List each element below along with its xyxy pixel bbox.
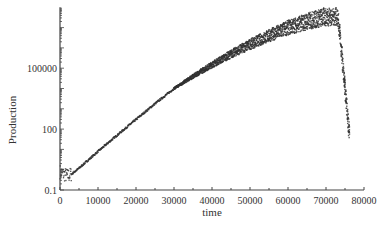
data-point: [331, 24, 332, 25]
data-point: [345, 101, 346, 102]
data-point: [290, 32, 291, 33]
data-point: [134, 120, 135, 121]
data-point: [322, 24, 323, 25]
data-point: [336, 21, 337, 22]
data-point: [63, 177, 64, 178]
data-point: [327, 9, 328, 10]
data-point: [289, 27, 290, 28]
data-point: [326, 19, 327, 20]
data-point: [338, 29, 339, 30]
data-point: [341, 51, 342, 52]
data-point: [265, 35, 266, 36]
data-point: [313, 23, 314, 24]
data-point: [299, 16, 300, 17]
data-point: [333, 17, 334, 18]
data-point: [337, 14, 338, 15]
data-point: [317, 23, 318, 24]
data-point: [324, 17, 325, 18]
data-point: [287, 32, 288, 33]
data-point: [288, 25, 289, 26]
data-point: [309, 12, 310, 13]
data-point: [344, 92, 345, 93]
data-point: [328, 19, 329, 20]
data-point: [295, 23, 296, 24]
data-point: [68, 180, 69, 181]
data-point: [349, 133, 350, 134]
data-point: [339, 38, 340, 39]
data-point: [347, 121, 348, 122]
data-point: [277, 30, 278, 31]
data-point: [337, 10, 338, 11]
data-point: [305, 21, 306, 22]
data-point: [328, 10, 329, 11]
data-point: [348, 137, 349, 138]
data-point: [323, 19, 324, 20]
data-point: [234, 54, 235, 55]
data-point: [244, 51, 245, 52]
data-point: [339, 35, 340, 36]
data-point: [344, 82, 345, 83]
data-point: [250, 40, 251, 41]
data-point: [67, 174, 68, 175]
data-point: [127, 126, 128, 127]
data-point: [321, 9, 322, 10]
data-point: [347, 110, 348, 111]
data-point: [258, 45, 259, 46]
data-point: [233, 56, 234, 57]
data-point: [332, 11, 333, 12]
data-point: [69, 177, 70, 178]
data-point: [316, 15, 317, 16]
chart: 0100002000030000400005000060000700008000…: [0, 0, 387, 230]
data-point: [324, 18, 325, 19]
data-point: [348, 121, 349, 122]
data-point: [154, 104, 155, 105]
data-point: [297, 31, 298, 32]
y-axis-label: Production: [6, 95, 18, 144]
data-point: [325, 15, 326, 16]
data-point: [311, 20, 312, 21]
data-point: [280, 27, 281, 28]
data-point: [317, 25, 318, 26]
data-point: [242, 48, 243, 49]
data-point: [325, 25, 326, 26]
data-point: [286, 35, 287, 36]
data-point: [295, 17, 296, 18]
data-points: [59, 7, 350, 181]
data-point: [327, 17, 328, 18]
data-point: [112, 139, 113, 140]
data-point: [310, 18, 311, 19]
data-point: [279, 33, 280, 34]
data-point: [108, 143, 109, 144]
data-point: [346, 106, 347, 107]
data-point: [315, 11, 316, 12]
data-point: [345, 98, 346, 99]
data-point: [319, 14, 320, 15]
data-point: [328, 20, 329, 21]
data-point: [291, 19, 292, 20]
data-point: [348, 135, 349, 136]
data-point: [307, 26, 308, 27]
axes: 0100002000030000400005000060000700008000…: [27, 7, 377, 206]
data-point: [344, 76, 345, 77]
x-tick-label: 0: [58, 195, 63, 206]
data-point: [289, 30, 290, 31]
data-point: [271, 39, 272, 40]
data-point: [297, 20, 298, 21]
data-point: [301, 30, 302, 31]
data-point: [341, 46, 342, 47]
data-point: [348, 126, 349, 127]
data-point: [229, 58, 230, 59]
data-point: [84, 163, 85, 164]
data-point: [274, 33, 275, 34]
data-point: [293, 31, 294, 32]
data-point: [69, 175, 70, 176]
data-point: [103, 146, 104, 147]
data-point: [311, 28, 312, 29]
data-point: [340, 37, 341, 38]
data-point: [344, 85, 345, 86]
data-point: [311, 15, 312, 16]
data-point: [137, 118, 138, 119]
data-point: [252, 43, 253, 44]
data-point: [297, 27, 298, 28]
data-point: [275, 38, 276, 39]
